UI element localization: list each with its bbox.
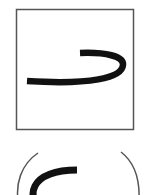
hook-stroke	[27, 53, 123, 82]
square-option[interactable]	[0, 0, 148, 135]
circle-glyph-icon	[0, 135, 148, 195]
circle-option[interactable]	[0, 135, 148, 195]
square-frame	[17, 10, 134, 130]
c-stroke	[33, 170, 77, 195]
circle-frame-right	[121, 152, 139, 195]
square-glyph-icon	[0, 0, 148, 135]
